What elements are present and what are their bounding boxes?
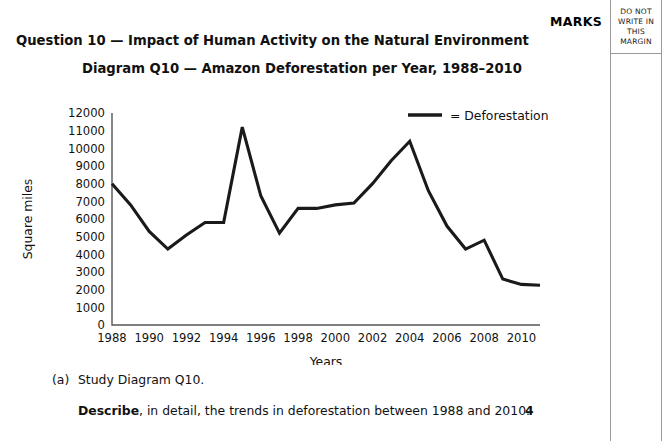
x-tick-label: 2008 <box>469 331 499 345</box>
margin-note: DO NOT WRITE IN THIS MARGIN <box>611 0 661 54</box>
part-a-marks-value: 4 <box>525 403 534 418</box>
part-a-stem-text: Study Diagram Q10. <box>78 372 204 387</box>
y-tick-label: 1000 <box>75 301 105 315</box>
y-tick-label: 12000 <box>68 106 105 120</box>
x-tick-label: 1988 <box>97 331 127 345</box>
y-tick-label: 8000 <box>75 177 105 191</box>
question-part-a-stem-row: (a) Study Diagram Q10. <box>0 372 560 387</box>
y-tick-label: 7000 <box>75 195 105 209</box>
legend-label: = Deforestation <box>450 108 549 123</box>
y-tick-label: 11000 <box>68 124 105 138</box>
x-tick-label: 1996 <box>246 331 276 345</box>
x-tick-label: 2010 <box>507 331 537 345</box>
chart-svg: 1200011000100009000800070006000500040003… <box>0 95 560 365</box>
x-tick-label: 2002 <box>358 331 388 345</box>
x-tick-label: 1990 <box>134 331 164 345</box>
margin-note-line-2: WRITE IN <box>613 17 659 27</box>
question-heading: Question 10 — Impact of Human Activity o… <box>16 33 529 48</box>
do-not-write-margin-column: DO NOT WRITE IN THIS MARGIN <box>610 0 662 441</box>
y-tick-label: 2000 <box>75 283 105 297</box>
x-tick-label: 2006 <box>432 331 462 345</box>
part-a-instruction-text: Describe, in detail, the trends in defor… <box>78 403 530 418</box>
deforestation-series-line <box>112 127 540 285</box>
y-axis-tick-labels: 1200011000100009000800070006000500040003… <box>68 106 105 332</box>
chart-axes <box>112 113 540 325</box>
x-tick-label: 2000 <box>321 331 351 345</box>
part-a-letter: (a) <box>52 372 69 387</box>
y-tick-label: 4000 <box>75 248 105 262</box>
question-part-a-instruction-row: Describe, in detail, the trends in defor… <box>0 403 560 418</box>
marks-column-header: MARKS <box>550 14 602 29</box>
y-tick-label: 9000 <box>75 159 105 173</box>
y-axis-title: Square miles <box>20 179 35 260</box>
y-tick-label: 5000 <box>75 230 105 244</box>
instruction-verb: Describe <box>78 403 139 418</box>
y-tick-label: 10000 <box>68 142 105 156</box>
x-axis-tick-labels: 1988199019921994199619982000200220042006… <box>97 331 536 345</box>
margin-note-line-4: MARGIN <box>613 37 659 47</box>
margin-note-line-3: THIS <box>613 27 659 37</box>
y-tick-label: 6000 <box>75 212 105 226</box>
diagram-heading: Diagram Q10 — Amazon Deforestation per Y… <box>82 61 522 76</box>
x-tick-label: 1992 <box>172 331 202 345</box>
instruction-remainder: , in detail, the trends in deforestation… <box>139 403 530 418</box>
x-axis-title: Years <box>309 354 343 365</box>
margin-note-line-1: DO NOT <box>613 7 659 17</box>
x-tick-label: 1998 <box>283 331 313 345</box>
y-tick-label: 3000 <box>75 265 105 279</box>
x-tick-label: 1994 <box>209 331 239 345</box>
x-tick-label: 2004 <box>395 331 425 345</box>
question-body: (a) Study Diagram Q10. Describe, in deta… <box>0 372 560 418</box>
deforestation-line-chart: 1200011000100009000800070006000500040003… <box>0 95 560 365</box>
